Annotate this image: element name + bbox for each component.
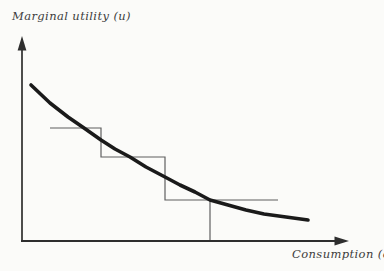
x-axis-label: Consumption (c) [292,247,384,261]
plot-canvas [0,0,384,271]
y-axis-arrowhead [18,36,27,51]
x-axis-arrowhead [335,237,350,246]
step-function [50,128,278,200]
axes-group [18,36,349,245]
step-function-path [50,128,278,200]
economics-figure: Marginal utility (u) Consumption (c) [0,0,384,271]
